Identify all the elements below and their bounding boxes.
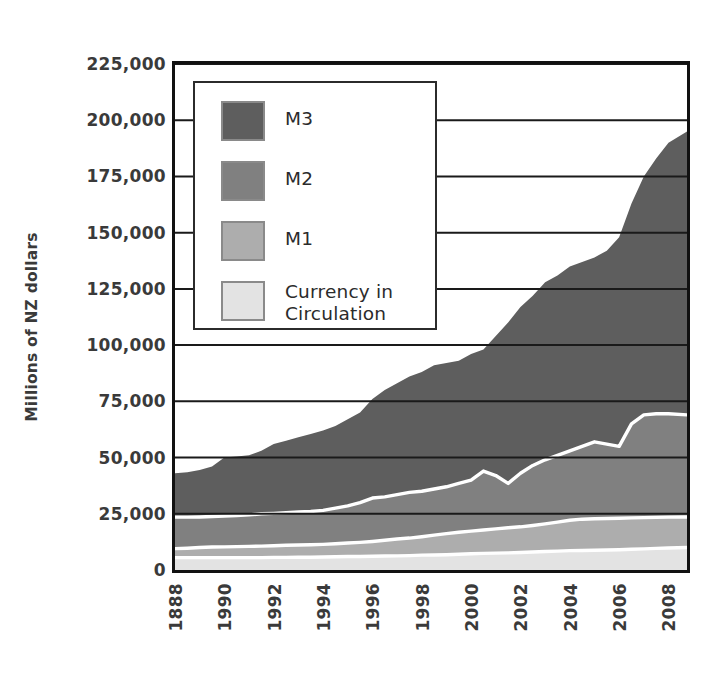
chart-root: Millions of NZ dollars 225,000200,000175…: [0, 0, 726, 688]
x-axis-tick-label: 2000: [462, 583, 482, 632]
x-axis-tick-label: 1888: [166, 583, 186, 632]
x-axis-tick-labels: 1888199019921994199619982000200220042006…: [0, 0, 726, 688]
x-axis-tick-label: 2008: [659, 583, 679, 632]
x-axis-tick-label: 2004: [561, 583, 581, 632]
x-axis-tick-label: 1992: [265, 583, 285, 632]
x-axis-tick-label: 1990: [215, 583, 235, 632]
x-axis-tick-label: 1994: [314, 583, 334, 632]
x-axis-tick-label: 2006: [610, 583, 630, 632]
x-axis-tick-label: 1996: [363, 583, 383, 632]
x-axis-tick-label: 2002: [511, 583, 531, 632]
x-axis-tick-label: 1998: [413, 583, 433, 632]
